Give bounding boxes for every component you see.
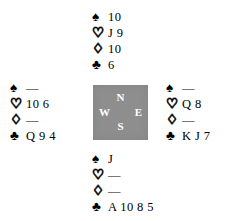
west-clubs-row: ♣ Q 9 4: [10, 128, 56, 144]
spade-icon: ♠: [10, 80, 23, 96]
heart-icon: ♡: [92, 167, 105, 183]
west-clubs-cards: Q 9 4: [23, 128, 56, 144]
spade-icon: ♠: [92, 9, 105, 25]
west-spades-cards: —: [23, 80, 39, 96]
diamond-icon: ♢: [92, 41, 105, 57]
south-hearts-cards: —: [105, 167, 121, 183]
hand-east: ♠ — ♡ Q 8 ♢ — ♣ K J 7: [166, 80, 210, 144]
hand-north: ♠ 10 ♡ J 9 ♢ 10 ♣ 6: [92, 9, 123, 73]
east-spades-cards: —: [179, 80, 195, 96]
east-hearts-cards: Q 8: [179, 96, 202, 112]
east-spades-row: ♠ —: [166, 80, 210, 96]
diamond-icon: ♢: [92, 183, 105, 199]
north-diamonds-cards: 10: [105, 41, 121, 57]
club-icon: ♣: [92, 57, 105, 73]
bridge-deal-diagram: ♠ 10 ♡ J 9 ♢ 10 ♣ 6 ♠ — ♡ 10 6 ♢ — ♣: [0, 0, 229, 221]
north-clubs-row: ♣ 6: [92, 57, 123, 73]
diamond-icon: ♢: [10, 112, 23, 128]
north-diamonds-row: ♢ 10: [92, 41, 123, 57]
compass-east-label: E: [135, 107, 142, 118]
west-diamonds-cards: —: [23, 112, 39, 128]
heart-icon: ♡: [10, 96, 23, 112]
north-spades-cards: 10: [105, 9, 121, 25]
spade-icon: ♠: [166, 80, 179, 96]
south-clubs-cards: A 10 8 5: [105, 199, 154, 215]
compass-box: N W E S: [93, 85, 148, 140]
compass-south-label: S: [93, 121, 148, 132]
west-hearts-cards: 10 6: [23, 96, 49, 112]
spade-icon: ♠: [92, 151, 105, 167]
north-hearts-cards: J 9: [105, 25, 123, 41]
west-spades-row: ♠ —: [10, 80, 56, 96]
south-diamonds-cards: —: [105, 183, 121, 199]
compass-west-label: W: [99, 107, 110, 118]
south-spades-cards: J: [105, 151, 113, 167]
north-clubs-cards: 6: [105, 57, 115, 73]
heart-icon: ♡: [166, 96, 179, 112]
south-clubs-row: ♣ A 10 8 5: [92, 199, 154, 215]
north-spades-row: ♠ 10: [92, 9, 123, 25]
heart-icon: ♡: [92, 25, 105, 41]
east-hearts-row: ♡ Q 8: [166, 96, 210, 112]
north-hearts-row: ♡ J 9: [92, 25, 123, 41]
club-icon: ♣: [10, 128, 23, 144]
east-clubs-row: ♣ K J 7: [166, 128, 210, 144]
hand-west: ♠ — ♡ 10 6 ♢ — ♣ Q 9 4: [10, 80, 56, 144]
east-diamonds-row: ♢ —: [166, 112, 210, 128]
club-icon: ♣: [92, 199, 105, 215]
south-spades-row: ♠ J: [92, 151, 154, 167]
club-icon: ♣: [166, 128, 179, 144]
compass-north-label: N: [93, 92, 148, 103]
west-diamonds-row: ♢ —: [10, 112, 56, 128]
hand-south: ♠ J ♡ — ♢ — ♣ A 10 8 5: [92, 151, 154, 215]
east-clubs-cards: K J 7: [179, 128, 210, 144]
south-diamonds-row: ♢ —: [92, 183, 154, 199]
diamond-icon: ♢: [166, 112, 179, 128]
west-hearts-row: ♡ 10 6: [10, 96, 56, 112]
south-hearts-row: ♡ —: [92, 167, 154, 183]
east-diamonds-cards: —: [179, 112, 195, 128]
